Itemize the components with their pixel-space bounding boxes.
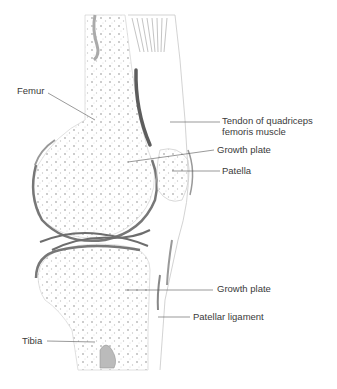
label-patellar-ligament: Patellar ligament [193, 311, 264, 322]
femur-bone [33, 15, 157, 241]
label-femur: Femur [17, 85, 44, 96]
label-patella: Patella [222, 165, 251, 176]
label-tendon-line-1: Tendon of quadriceps [222, 115, 313, 126]
label-tendon-quadriceps: Tendon of quadriceps femoris muscle [222, 115, 313, 137]
label-growth-plate-upper: Growth plate [217, 144, 271, 155]
label-tibia: Tibia [22, 335, 42, 346]
label-tendon-line-2: femoris muscle [222, 126, 313, 137]
label-growth-plate-lower: Growth plate [217, 283, 271, 294]
tibia-bone [36, 244, 150, 370]
knee-anatomy-illustration [0, 0, 337, 389]
